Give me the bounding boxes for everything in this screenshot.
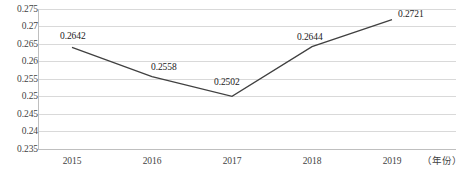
data-point-label: 0.2642	[60, 31, 86, 42]
x-axis-tick-label: 2019	[367, 155, 417, 167]
y-axis-tick-label: 0.25	[0, 91, 38, 101]
y-axis-tick-label: 0.245	[0, 109, 38, 119]
y-axis-tick-label: 0.27	[0, 21, 38, 31]
chart-plot-area	[0, 0, 461, 179]
line-chart: 0.2750.270.2650.260.2550.250.2450.240.23…	[0, 0, 461, 179]
x-axis-tick-label: 2017	[207, 155, 257, 167]
y-axis-tick-label: 0.26	[0, 56, 38, 66]
y-axis-tick-label: 0.235	[0, 144, 38, 154]
x-axis-tick-label: 2016	[127, 155, 177, 167]
x-axis-tick-label: 2018	[287, 155, 337, 167]
data-point-label: 0.2502	[214, 77, 240, 88]
y-axis-tick-label: 0.265	[0, 39, 38, 49]
data-point-label: 0.2558	[151, 62, 177, 73]
y-axis-tick-label: 0.275	[0, 4, 38, 14]
data-point-label: 0.2721	[398, 9, 424, 20]
y-axis-tick-label: 0.255	[0, 74, 38, 84]
data-point-label: 0.2644	[297, 32, 323, 43]
gridlines	[38, 10, 456, 150]
x-axis-tick-label: 2015	[47, 155, 97, 167]
y-axis-tick-label: 0.24	[0, 126, 38, 136]
x-axis-title: （年份）	[422, 155, 461, 167]
